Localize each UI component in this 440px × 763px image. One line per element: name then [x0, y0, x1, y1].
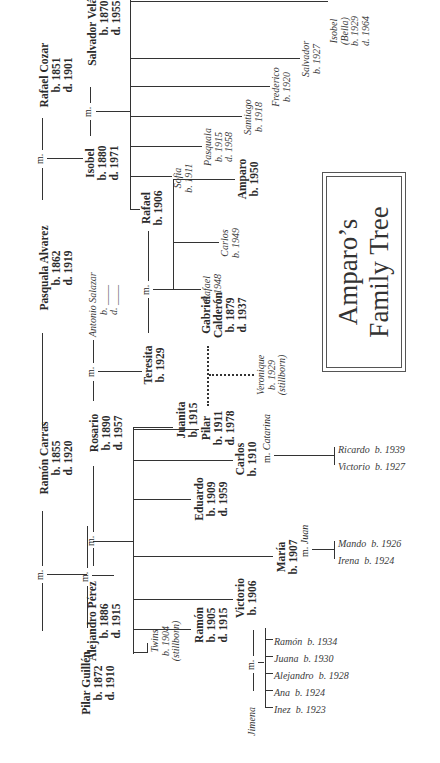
descent-line	[47, 158, 83, 159]
marriage-line	[93, 340, 94, 363]
drop-twins	[133, 652, 147, 653]
union-dotted-line	[207, 346, 209, 406]
child-irena: Irena b. 1924	[338, 556, 394, 567]
person-salvador: Salvador b. 1927	[301, 35, 322, 83]
name: Ramón Carras	[38, 403, 50, 513]
marriage-label: m.	[35, 570, 46, 580]
name: Rafael Cozar	[38, 35, 50, 115]
marriage-label: m.	[86, 536, 97, 546]
birth: b. 1929	[350, 7, 361, 55]
name: Teresita	[142, 335, 154, 395]
person-isobel-bella: Isobel (Bella) b. 1929 d. 1964	[329, 7, 371, 55]
person-maria: María b. 1907	[275, 529, 299, 585]
death: d. ____	[109, 272, 120, 337]
person-isobel: Isobel b. 1880 d. 1971	[84, 138, 120, 188]
victorio-children: Inez b. 1923	[274, 705, 326, 716]
person-pilar: Pilar b. 1911 d. 1978	[200, 406, 236, 450]
descent-line	[47, 574, 87, 575]
descent-line	[153, 289, 173, 290]
child-juana: Juana b. 1930	[274, 654, 333, 665]
birth: b. 1915	[187, 395, 199, 445]
death: d. 1971	[108, 138, 120, 188]
marriage-line	[90, 120, 91, 136]
descent-line	[274, 455, 334, 456]
person-antonio-salazar: Antonio Salazar b. ____ d. ____	[88, 272, 120, 337]
death: d. 1964	[361, 7, 372, 55]
marriage-line	[253, 673, 254, 691]
person-pasquala-alvarez: Pasquala Alvarez b. 1862 d. 1919	[38, 203, 74, 333]
name: Rafael	[140, 188, 152, 228]
marriage-line	[42, 118, 43, 150]
death: d. 1958	[224, 125, 235, 169]
birth: b. 1855	[50, 403, 62, 513]
person-victorio: Victorio b. 1906	[234, 568, 258, 628]
drop-maria	[133, 556, 273, 557]
birth: b. 1906	[246, 568, 258, 628]
death: d. 1937	[236, 285, 248, 345]
name: Twins	[150, 616, 161, 666]
name: Pasquala	[203, 125, 214, 169]
name: Ramón	[193, 600, 205, 650]
name: Frederico	[271, 63, 282, 111]
spouse-jimena: Jimena	[247, 707, 258, 736]
person-rafael-cozar: Rafael Cozar b. 1851 d. 1901	[38, 35, 74, 115]
child-mando: Mando b. 1926	[338, 539, 401, 550]
name: Alejandro Pérez	[86, 566, 98, 676]
name: Pasquala Alvarez	[38, 203, 50, 333]
drop	[265, 673, 273, 674]
title-box: Amparo’s Family Tree	[322, 172, 406, 372]
marriage-line	[42, 511, 43, 566]
birth: b. 1949	[231, 221, 242, 265]
name: Isobel	[329, 7, 340, 55]
child-inez: Inez b. 1923	[274, 705, 326, 716]
person-frederico: Frederico b. 1920	[271, 63, 292, 111]
birth: b. 1862	[50, 203, 62, 333]
marriage-label: m.	[83, 107, 94, 117]
person-sofia: Sofia b. 1911	[173, 158, 194, 198]
descent-line	[93, 541, 133, 542]
person-rosario: Rosario b. 1890 d. 1957	[88, 403, 124, 463]
child-alejandro: Alejandro b. 1928	[274, 671, 349, 682]
child-ricardo: Ricardo b. 1939	[338, 445, 405, 456]
marriage-line	[93, 466, 94, 532]
person-carlos: Carlos b. 1910	[234, 431, 258, 487]
drop-carlos	[133, 460, 233, 461]
person-teresita: Teresita b. 1929	[142, 335, 166, 395]
drop-frederico	[130, 86, 270, 87]
title-line-2: Family Tree	[364, 206, 395, 337]
note: (stillborn)	[171, 616, 182, 666]
name: Pilar	[200, 406, 212, 450]
drop-sofia	[130, 176, 172, 177]
person-amparo: Amparo b. 1950	[236, 155, 260, 203]
marriage-line	[42, 168, 43, 200]
name: Antonio Salazar	[88, 272, 99, 337]
drop-pasquala	[130, 146, 202, 147]
death: d. 1955	[110, 0, 122, 93]
child-victorio-c: Victorio b. 1927	[338, 462, 405, 473]
person-pasquala: Pasquala b. 1915 d. 1958	[203, 125, 235, 169]
title-box-inner: Amparo’s Family Tree	[326, 176, 402, 368]
name: Isobel	[84, 138, 96, 188]
child-ramon: Ramón b. 1934	[274, 637, 337, 648]
drop	[265, 639, 273, 640]
drop	[265, 707, 273, 708]
marriage-line	[148, 298, 149, 333]
person-juanita: Juanita b. 1915	[175, 395, 199, 445]
person-salvador-velasquez: Salvador Velásquez b. 1870 d. 1955	[86, 0, 122, 93]
birth: b. 1905	[205, 600, 217, 650]
drop-salvador	[130, 58, 300, 59]
drop-rafael	[130, 209, 140, 210]
name: Victorio	[234, 568, 246, 628]
drop	[265, 690, 273, 691]
marriage-line	[93, 548, 94, 566]
carlos-marriage: m. Catarina	[262, 414, 273, 463]
drop	[265, 656, 273, 657]
death: d. 1959	[217, 471, 229, 527]
birth: b. 1929	[154, 335, 166, 395]
birth: b. 1870	[98, 0, 110, 93]
name: Rafael	[202, 267, 213, 311]
person-ramon-carras: Ramón Carras b. 1855 d. 1920	[38, 403, 74, 513]
name: Juanita	[175, 395, 187, 445]
name: Carlos	[220, 221, 231, 265]
person-santiago: Santiago b. 1918	[243, 95, 264, 139]
